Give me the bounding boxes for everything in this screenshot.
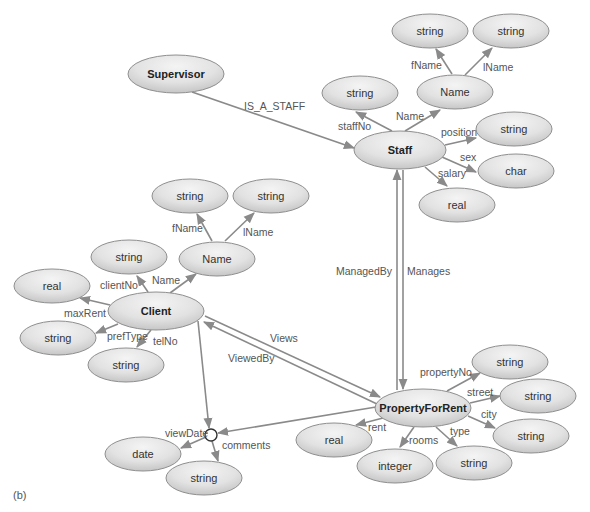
label-property-street: street xyxy=(467,386,493,398)
edge-staff-position xyxy=(445,138,476,145)
label-client-lname: lName xyxy=(243,226,274,238)
svg-text:real: real xyxy=(448,199,466,211)
label-staff-position: position xyxy=(441,126,477,138)
label-client-telno: telNo xyxy=(153,335,178,347)
node-staff-position-type: string xyxy=(476,112,552,146)
node-property-rooms-type: integer xyxy=(357,449,433,483)
node-supervisor: Supervisor xyxy=(128,55,224,93)
label-staff-name: Name xyxy=(396,110,424,122)
label-property-type: type xyxy=(450,425,470,437)
label-viewed-by: ViewedBy xyxy=(228,352,275,364)
svg-text:Supervisor: Supervisor xyxy=(147,68,205,80)
node-client-telno-type: string xyxy=(88,348,164,382)
svg-text:string: string xyxy=(461,457,488,469)
node-staff-sex-type: char xyxy=(478,154,554,188)
node-property-type-type: string xyxy=(436,446,512,480)
label-view-comments: comments xyxy=(222,439,270,451)
label-client-maxrent: maxRent xyxy=(64,307,106,319)
edge-client-maxrent xyxy=(80,298,110,305)
label-manages: Manages xyxy=(407,265,450,277)
node-client-lname-type: string xyxy=(233,179,309,213)
svg-text:date: date xyxy=(132,448,153,460)
nodes: Supervisor Staff Name string string stri… xyxy=(14,14,576,495)
edge-client-clientno xyxy=(137,276,148,292)
node-property-street-type: string xyxy=(500,379,576,413)
label-is-a-staff: IS_A_STAFF xyxy=(244,100,305,112)
figure-caption: (b) xyxy=(13,489,26,501)
svg-text:string: string xyxy=(497,356,524,368)
svg-text:string: string xyxy=(45,332,72,344)
node-client-clientno-type: string xyxy=(91,240,167,274)
label-managed-by: ManagedBy xyxy=(336,265,393,277)
label-staff-lname: lName xyxy=(483,61,514,73)
svg-text:string: string xyxy=(417,25,444,37)
svg-text:char: char xyxy=(505,165,527,177)
label-property-propertyno: propertyNo xyxy=(420,366,472,378)
svg-text:string: string xyxy=(113,359,140,371)
node-staff: Staff xyxy=(354,131,446,169)
svg-text:Staff: Staff xyxy=(388,144,413,156)
svg-text:real: real xyxy=(325,434,343,446)
label-client-name: Name xyxy=(152,274,180,286)
label-staff-sex: sex xyxy=(460,151,477,163)
node-staff-name: Name xyxy=(417,75,493,109)
label-client-preftype: prefType xyxy=(107,330,148,342)
node-staff-fname-type: string xyxy=(392,14,468,48)
node-view-date-type: date xyxy=(105,437,181,471)
node-property-city-type: string xyxy=(493,419,569,453)
node-property-propertyno-type: string xyxy=(472,345,548,379)
node-client-maxrent-type: real xyxy=(14,269,90,303)
label-client-fname: fName xyxy=(172,222,203,234)
label-view-date: viewDate xyxy=(165,427,208,439)
svg-text:string: string xyxy=(258,190,285,202)
node-staff-salary-type: real xyxy=(419,188,495,222)
svg-text:string: string xyxy=(177,190,204,202)
node-staff-lname-type: string xyxy=(473,14,549,48)
node-client-fname-type: string xyxy=(152,179,228,213)
node-client: Client xyxy=(108,292,204,330)
node-view-comments-type: string xyxy=(166,461,242,495)
svg-text:PropertyForRent: PropertyForRent xyxy=(379,402,467,414)
edge-client-view xyxy=(198,321,209,428)
node-client-name: Name xyxy=(179,242,255,276)
svg-text:string: string xyxy=(347,87,374,99)
svg-text:string: string xyxy=(501,123,528,135)
svg-text:string: string xyxy=(116,251,143,263)
svg-text:Name: Name xyxy=(440,86,469,98)
label-client-clientno: clientNo xyxy=(100,279,138,291)
er-diagram: IS_A_STAFF fName lName Name staffNo posi… xyxy=(0,0,590,512)
node-property-for-rent: PropertyForRent xyxy=(375,389,471,427)
edge-view-comments xyxy=(212,441,218,461)
label-property-rooms: rooms xyxy=(409,434,438,446)
label-staff-salary: salary xyxy=(438,167,467,179)
node-property-rent-type: real xyxy=(296,423,372,457)
svg-text:string: string xyxy=(498,25,525,37)
svg-text:string: string xyxy=(191,472,218,484)
label-staff-fname: fName xyxy=(411,59,442,71)
node-client-preftype-type: string xyxy=(20,321,96,355)
svg-text:real: real xyxy=(43,280,61,292)
label-views: Views xyxy=(270,332,298,344)
svg-text:string: string xyxy=(518,430,545,442)
node-staff-staffno-type: string xyxy=(322,76,398,110)
svg-text:string: string xyxy=(525,390,552,402)
label-staff-staffno: staffNo xyxy=(338,120,371,132)
svg-text:integer: integer xyxy=(378,460,412,472)
label-property-rent: rent xyxy=(368,421,386,433)
label-property-city: city xyxy=(481,408,498,420)
svg-text:Client: Client xyxy=(141,305,172,317)
svg-text:Name: Name xyxy=(202,253,231,265)
